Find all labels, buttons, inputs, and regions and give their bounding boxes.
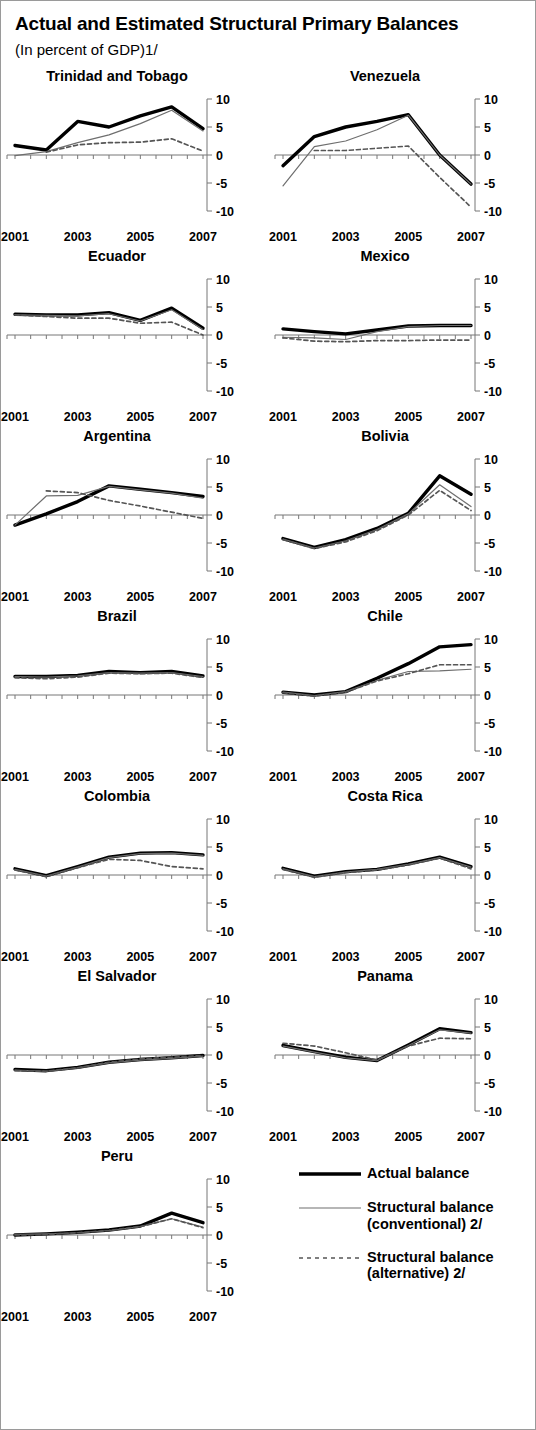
figure-header: Actual and Estimated Structural Primary … xyxy=(1,1,535,59)
series-line xyxy=(15,315,203,335)
y-tick-label: 0 xyxy=(216,689,223,703)
panel-row: Colombia-10-505102001200320052007Costa R… xyxy=(1,787,536,967)
chart-panel-bolivia: Bolivia-10-505102001200320052007 xyxy=(269,427,536,607)
series-line xyxy=(283,115,471,184)
y-tick-label: 0 xyxy=(216,149,223,163)
y-tick-label: 0 xyxy=(484,689,491,703)
x-tick-label: 2005 xyxy=(394,410,422,424)
y-tick-label: -5 xyxy=(484,1077,495,1091)
y-tick-label: -5 xyxy=(216,1077,227,1091)
panel-title: Brazil xyxy=(1,609,233,625)
panel-plot: -10-505102001200320052007 xyxy=(1,629,269,787)
chart-panel-colombia: Colombia-10-505102001200320052007 xyxy=(1,787,269,967)
y-tick-label: 5 xyxy=(484,121,491,135)
y-tick-label: 0 xyxy=(484,869,491,883)
panel-title: Ecuador xyxy=(1,249,233,265)
x-tick-label: 2001 xyxy=(1,230,29,244)
chart-panel-ecuador: Ecuador-10-505102001200320052007 xyxy=(1,247,269,427)
legend-label: Structural balance (alternative) 2/ xyxy=(367,1249,494,1282)
x-tick-label: 2005 xyxy=(394,770,422,784)
series-line xyxy=(283,645,471,695)
x-tick-label: 2001 xyxy=(1,1130,29,1144)
panel-plot: -10-505102001200320052007 xyxy=(269,809,536,967)
y-tick-label: -5 xyxy=(216,537,227,551)
x-tick-label: 2007 xyxy=(189,410,217,424)
chart-panel-el-salvador: El Salvador-10-505102001200320052007 xyxy=(1,967,269,1147)
series-line xyxy=(283,670,471,696)
x-tick-label: 2003 xyxy=(332,950,360,964)
y-tick-label: 10 xyxy=(216,1173,230,1187)
x-tick-label: 2005 xyxy=(394,1130,422,1144)
x-tick-label: 2003 xyxy=(332,230,360,244)
page-title: Actual and Estimated Structural Primary … xyxy=(15,13,521,35)
x-tick-label: 2001 xyxy=(269,590,297,604)
y-tick-label: 0 xyxy=(484,509,491,523)
chart-panel-costa-rica: Costa Rica-10-505102001200320052007 xyxy=(269,787,536,967)
y-tick-label: 10 xyxy=(484,273,498,287)
legend-label: Actual balance xyxy=(367,1165,469,1182)
panel-title: Bolivia xyxy=(269,429,501,445)
panel-plot: -10-505102001200320052007 xyxy=(269,449,536,607)
x-tick-label: 2001 xyxy=(1,410,29,424)
panel-title: Mexico xyxy=(269,249,501,265)
y-tick-label: 5 xyxy=(484,481,491,495)
y-tick-label: 10 xyxy=(216,453,230,467)
x-tick-label: 2005 xyxy=(126,950,154,964)
series-line xyxy=(15,486,203,525)
y-tick-label: 5 xyxy=(216,301,223,315)
y-tick-label: -10 xyxy=(484,745,502,759)
x-tick-label: 2003 xyxy=(332,770,360,784)
y-tick-label: 10 xyxy=(484,813,498,827)
x-tick-label: 2001 xyxy=(1,770,29,784)
x-tick-label: 2003 xyxy=(332,590,360,604)
y-tick-label: -10 xyxy=(216,205,234,219)
series-line xyxy=(15,1214,203,1236)
y-tick-label: 5 xyxy=(216,841,223,855)
x-tick-label: 2007 xyxy=(189,770,217,784)
y-tick-label: 10 xyxy=(484,993,498,1007)
y-tick-label: -5 xyxy=(484,177,495,191)
legend-swatch-dashed xyxy=(297,1249,363,1267)
y-tick-label: -5 xyxy=(216,897,227,911)
series-line xyxy=(283,491,471,549)
y-tick-label: -10 xyxy=(216,1105,234,1119)
panel-title: Chile xyxy=(269,609,501,625)
x-tick-label: 2003 xyxy=(64,230,92,244)
y-tick-label: 5 xyxy=(216,661,223,675)
y-tick-label: -10 xyxy=(484,385,502,399)
y-tick-label: -5 xyxy=(216,717,227,731)
panel-plot: -10-505102001200320052007 xyxy=(1,449,269,607)
panel-plot: -10-505102001200320052007 xyxy=(269,89,536,247)
y-tick-label: 5 xyxy=(216,481,223,495)
legend-swatch-thick-solid xyxy=(297,1165,363,1183)
x-tick-label: 2001 xyxy=(1,950,29,964)
x-tick-label: 2001 xyxy=(269,410,297,424)
panel-plot: -10-505102001200320052007 xyxy=(269,629,536,787)
y-tick-label: 5 xyxy=(216,121,223,135)
x-tick-label: 2007 xyxy=(189,590,217,604)
x-tick-label: 2003 xyxy=(64,950,92,964)
y-tick-label: -10 xyxy=(484,205,502,219)
x-tick-label: 2005 xyxy=(126,1130,154,1144)
chart-panel-venezuela: Venezuela-10-505102001200320052007 xyxy=(269,67,536,247)
panel-title: Peru xyxy=(1,1149,233,1165)
panel-title: Argentina xyxy=(1,429,233,445)
x-tick-label: 2001 xyxy=(269,230,297,244)
y-tick-label: 0 xyxy=(216,1049,223,1063)
x-tick-label: 2005 xyxy=(126,770,154,784)
y-tick-label: 0 xyxy=(216,1229,223,1243)
figure-container: Actual and Estimated Structural Primary … xyxy=(0,0,536,1430)
x-tick-label: 2007 xyxy=(457,230,485,244)
y-tick-label: -10 xyxy=(484,1105,502,1119)
panel-row: Argentina-10-505102001200320052007Bolivi… xyxy=(1,427,536,607)
x-tick-label: 2003 xyxy=(64,1130,92,1144)
x-tick-label: 2001 xyxy=(269,1130,297,1144)
y-tick-label: -5 xyxy=(216,1257,227,1271)
y-tick-label: 0 xyxy=(216,509,223,523)
chart-panel-panama: Panama-10-505102001200320052007 xyxy=(269,967,536,1147)
x-tick-label: 2005 xyxy=(126,590,154,604)
panel-row: Trinidad and Tobago-10-50510200120032005… xyxy=(1,67,536,247)
x-tick-label: 2007 xyxy=(189,1130,217,1144)
y-tick-label: 0 xyxy=(484,149,491,163)
panel-title: Colombia xyxy=(1,789,233,805)
